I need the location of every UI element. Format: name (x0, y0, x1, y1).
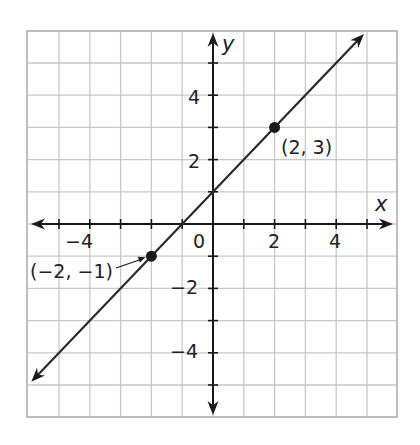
axes (31, 33, 393, 415)
x-tick-label-4: 4 (329, 232, 341, 251)
x-tick-label-2: 2 (268, 232, 280, 251)
label-pointer-arrow-icon (138, 257, 146, 263)
origin-label: 0 (193, 232, 205, 251)
x-axis-label: x (375, 194, 387, 215)
data-point (269, 122, 280, 133)
data-point (146, 251, 157, 262)
x-tick-label-neg4: −4 (65, 232, 93, 251)
y-tick-label-neg2: −2 (170, 278, 198, 297)
label-pointer (116, 259, 141, 268)
y-tick-label-neg4: −4 (170, 342, 198, 361)
point-label-neg2-neg1: (−2, −1) (30, 262, 113, 281)
y-tick-label-4: 4 (188, 88, 200, 107)
y-axis-label: y (222, 34, 234, 55)
coordinate-plane (0, 0, 420, 445)
y-tick-label-2: 2 (188, 152, 200, 171)
point-label-2-3: (2, 3) (281, 138, 332, 157)
